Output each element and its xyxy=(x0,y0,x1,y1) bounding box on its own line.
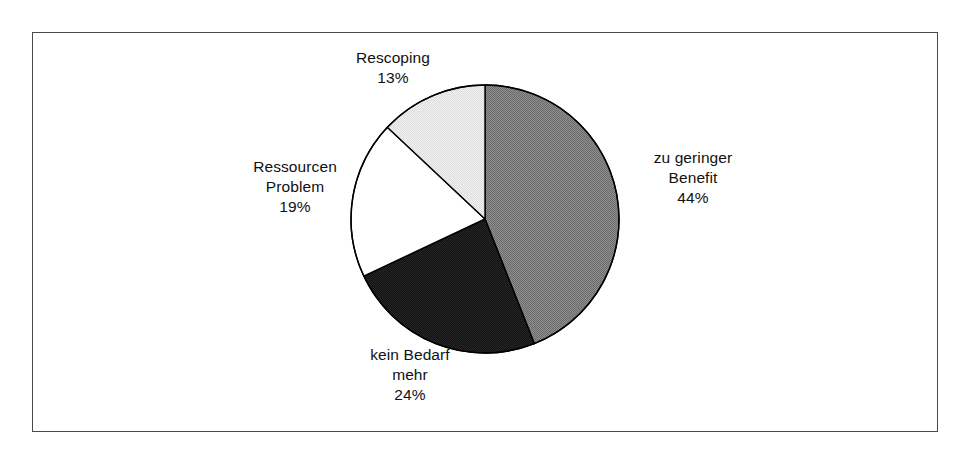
slice-label-kein-bedarf-text-line2: mehr xyxy=(310,365,510,385)
slice-label-ressourcen-problem: Ressourcen Problem 19% xyxy=(210,157,380,217)
pie-chart-figure: Rescoping 13% Ressourcen Problem 19% zu … xyxy=(0,0,967,458)
slice-label-benefit-percent: 44% xyxy=(608,188,778,208)
slice-label-rescoping: Rescoping 13% xyxy=(308,48,478,88)
slice-label-benefit-text-line2: Benefit xyxy=(608,168,778,188)
slice-label-ressourcen-text-line2: Problem xyxy=(210,177,380,197)
slice-label-rescoping-text: Rescoping xyxy=(308,48,478,68)
slice-label-rescoping-percent: 13% xyxy=(308,68,478,88)
slice-label-ressourcen-percent: 19% xyxy=(210,197,380,217)
slice-label-zu-geringer-benefit: zu geringer Benefit 44% xyxy=(608,148,778,208)
slice-label-ressourcen-text-line1: Ressourcen xyxy=(210,157,380,177)
slice-label-kein-bedarf-mehr: kein Bedarf mehr 24% xyxy=(310,345,510,405)
slice-label-kein-bedarf-percent: 24% xyxy=(310,385,510,405)
slice-label-kein-bedarf-text-line1: kein Bedarf xyxy=(310,345,510,365)
slice-label-benefit-text-line1: zu geringer xyxy=(608,148,778,168)
